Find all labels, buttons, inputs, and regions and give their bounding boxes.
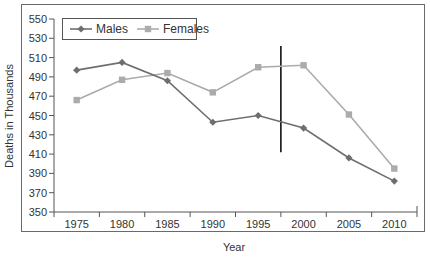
y-tick-label: 510 (29, 52, 47, 64)
y-tick-label: 530 (29, 32, 47, 44)
y-tick-label: 450 (29, 110, 47, 122)
square-marker-icon (73, 97, 79, 103)
legend-label: Females (163, 22, 209, 36)
x-tick-label: 2005 (337, 218, 361, 230)
x-tick-label: 1990 (201, 218, 225, 230)
x-tick-label: 1985 (155, 218, 179, 230)
square-marker-icon (145, 26, 151, 32)
x-axis-title: Year (223, 241, 246, 253)
x-tick-label: 1975 (64, 218, 88, 230)
square-marker-icon (391, 165, 397, 171)
y-tick-label: 430 (29, 129, 47, 141)
y-tick-label: 470 (29, 90, 47, 102)
y-tick-label: 550 (29, 13, 47, 25)
y-axis-title: Deaths in Thousands (3, 64, 15, 168)
y-tick-label: 490 (29, 71, 47, 83)
y-tick-label: 350 (29, 206, 47, 218)
square-marker-icon (210, 89, 216, 95)
x-tick-label: 2000 (291, 218, 315, 230)
x-tick-label: 1995 (246, 218, 270, 230)
square-marker-icon (346, 111, 352, 117)
y-tick-label: 370 (29, 187, 47, 199)
square-marker-icon (164, 70, 170, 76)
y-tick-label: 410 (29, 148, 47, 160)
x-tick-label: 2010 (382, 218, 406, 230)
line-chart: 350370390410430450470490510530550 197519… (0, 0, 430, 258)
square-marker-icon (255, 64, 261, 70)
legend: MalesFemales (63, 19, 210, 40)
legend-label: Males (96, 22, 128, 36)
square-marker-icon (119, 77, 125, 83)
y-tick-label: 390 (29, 167, 47, 179)
square-marker-icon (300, 62, 306, 68)
x-tick-label: 1980 (110, 218, 134, 230)
